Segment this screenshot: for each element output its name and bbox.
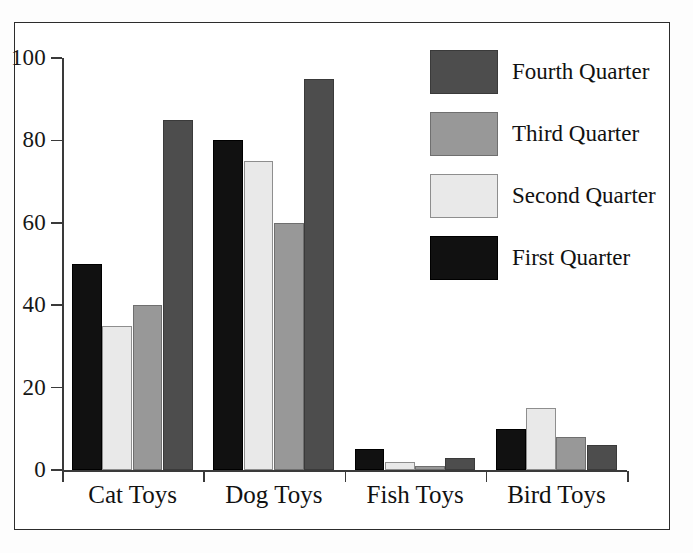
bar-bird-toys-second-quarter[interactable] bbox=[526, 408, 556, 470]
legend-swatch-q3 bbox=[430, 112, 498, 156]
y-axis-tick-100 bbox=[51, 57, 62, 59]
y-axis-tick-label: 0 bbox=[0, 458, 46, 481]
chart-legend: Fourth QuarterThird QuarterSecond Quarte… bbox=[430, 50, 660, 298]
y-axis-tick-label: 20 bbox=[0, 376, 46, 399]
y-axis-tick-20 bbox=[51, 387, 62, 389]
y-axis-tick-label: 60 bbox=[0, 211, 46, 234]
y-axis-tick-60 bbox=[51, 222, 62, 224]
legend-item-fourth-quarter[interactable]: Fourth Quarter bbox=[430, 50, 660, 112]
bar-cat-toys-first-quarter[interactable] bbox=[72, 264, 102, 470]
bar-cat-toys-fourth-quarter[interactable] bbox=[163, 120, 193, 470]
x-axis-tick-4 bbox=[627, 471, 629, 482]
legend-label: Fourth Quarter bbox=[512, 57, 649, 87]
y-axis-tick-80 bbox=[51, 140, 62, 142]
bar-bird-toys-third-quarter[interactable] bbox=[556, 437, 586, 470]
bar-dog-toys-fourth-quarter[interactable] bbox=[304, 79, 334, 470]
legend-label: First Quarter bbox=[512, 243, 630, 273]
bar-cat-toys-third-quarter[interactable] bbox=[133, 305, 163, 470]
legend-item-second-quarter[interactable]: Second Quarter bbox=[430, 174, 660, 236]
bar-dog-toys-third-quarter[interactable] bbox=[274, 223, 304, 470]
legend-item-third-quarter[interactable]: Third Quarter bbox=[430, 112, 660, 174]
category-label-fish-toys: Fish Toys bbox=[345, 481, 486, 509]
category-label-cat-toys: Cat Toys bbox=[62, 481, 203, 509]
bar-dog-toys-first-quarter[interactable] bbox=[213, 140, 243, 470]
y-axis-tick-label: 100 bbox=[0, 46, 46, 69]
bar-fish-toys-second-quarter[interactable] bbox=[385, 462, 415, 470]
legend-label: Second Quarter bbox=[512, 181, 656, 211]
bar-fish-toys-first-quarter[interactable] bbox=[355, 449, 385, 470]
y-axis-tick-40 bbox=[51, 304, 62, 306]
legend-item-first-quarter[interactable]: First Quarter bbox=[430, 236, 660, 298]
bar-fish-toys-third-quarter[interactable] bbox=[415, 466, 445, 470]
legend-swatch-q1 bbox=[430, 236, 498, 280]
y-axis-tick-label: 80 bbox=[0, 128, 46, 151]
bar-bird-toys-first-quarter[interactable] bbox=[496, 429, 526, 470]
bar-fish-toys-fourth-quarter[interactable] bbox=[445, 458, 475, 470]
legend-swatch-q4 bbox=[430, 50, 498, 94]
legend-label: Third Quarter bbox=[512, 119, 639, 149]
category-label-dog-toys: Dog Toys bbox=[203, 481, 344, 509]
legend-swatch-q2 bbox=[430, 174, 498, 218]
bar-cat-toys-second-quarter[interactable] bbox=[102, 326, 132, 470]
chart-figure: 100806040200 Cat ToysDog ToysFish ToysBi… bbox=[0, 0, 693, 553]
bar-bird-toys-fourth-quarter[interactable] bbox=[587, 445, 617, 470]
bar-dog-toys-second-quarter[interactable] bbox=[244, 161, 274, 470]
y-axis-tick-label: 40 bbox=[0, 293, 46, 316]
category-label-bird-toys: Bird Toys bbox=[486, 481, 627, 509]
y-axis-tick-0 bbox=[51, 469, 62, 471]
